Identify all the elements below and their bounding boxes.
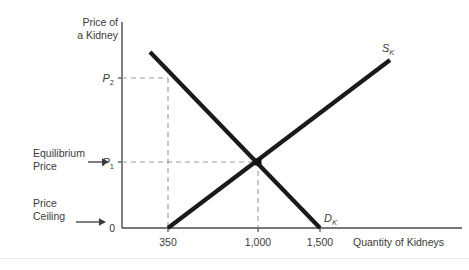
demand-curve-label-base: D: [324, 212, 332, 224]
x-tick-label-1000: 1,000: [245, 236, 271, 248]
y-axis-title-line2: a Kidney: [77, 29, 119, 41]
equilibrium-price-annotation-line2: Price: [33, 160, 57, 172]
demand-curve-label-subscript: K: [332, 218, 338, 227]
price-ceiling-annotation-line1: Price: [33, 197, 57, 209]
price-ceiling-arrow: [76, 218, 106, 226]
equilibrium-price-annotation-line1: Equilibrium: [33, 147, 85, 159]
y-label-p2-subscript: 2: [110, 78, 114, 87]
y-axis-title-line1: Price of: [82, 16, 118, 28]
x-tick-label-1500: 1,500: [307, 236, 333, 248]
y-label-p1-subscript: 1: [110, 162, 114, 171]
kidney-market-chart: Price of a Kidney Quantity of Kidneys 35…: [0, 0, 469, 270]
supply-curve-label-subscript: K: [389, 48, 395, 57]
x-axis-title: Quantity of Kidneys: [353, 236, 444, 248]
bottom-divider-rule: [0, 258, 469, 259]
demand-curve-label: DK: [324, 212, 338, 227]
supply-demand-figure: Price of a Kidney Quantity of Kidneys 35…: [0, 0, 469, 270]
price-ceiling-annotation-line2: Ceiling: [33, 210, 65, 222]
y-label-p2: P2: [102, 72, 114, 87]
origin-label: 0: [109, 222, 115, 234]
equilibrium-point-marker: [255, 159, 262, 166]
supply-curve-label: SK: [382, 42, 395, 57]
x-tick-label-350: 350: [159, 236, 177, 248]
supply-curve: [168, 60, 390, 228]
demand-curve: [150, 52, 320, 228]
